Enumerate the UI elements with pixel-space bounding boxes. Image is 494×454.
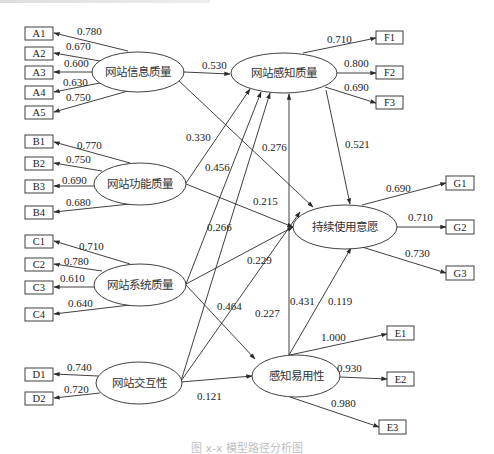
svg-text:0.690: 0.690 [62, 174, 87, 186]
svg-text:B2: B2 [33, 158, 45, 169]
svg-text:网站感知质量: 网站感知质量 [251, 66, 317, 80]
indicator-B4: B4 [25, 206, 53, 219]
svg-text:0.930: 0.930 [337, 362, 362, 374]
indicator-C4: C4 [25, 308, 53, 321]
svg-text:0.431: 0.431 [290, 295, 315, 307]
indicator-G1: G1 [446, 176, 474, 190]
svg-text:A3: A3 [33, 67, 46, 78]
latent-function-quality: 网站功能质量 [94, 163, 186, 205]
figure-caption: 图 x-x 模型路径分析图 [191, 441, 303, 454]
svg-text:0.690: 0.690 [344, 81, 369, 93]
svg-text:E1: E1 [395, 328, 407, 339]
svg-text:0.121: 0.121 [197, 390, 222, 402]
svg-text:0.640: 0.640 [68, 297, 93, 309]
indicator-F2: F2 [376, 66, 403, 79]
indicator-A1: A1 [25, 27, 53, 40]
indicator-B3: B3 [25, 180, 53, 193]
svg-text:B4: B4 [33, 207, 46, 218]
svg-text:F2: F2 [384, 67, 395, 78]
svg-text:E2: E2 [395, 374, 407, 385]
latent-interactivity: 网站交互性 [96, 362, 182, 404]
svg-text:A2: A2 [33, 48, 46, 59]
svg-text:0.780: 0.780 [77, 25, 102, 37]
svg-text:0.690: 0.690 [386, 182, 411, 194]
svg-text:0.770: 0.770 [77, 139, 102, 151]
svg-text:A4: A4 [33, 87, 47, 98]
sem-path-diagram: A1 A2 A3 A4 A5 B1 B2 B3 B4 C1 C2 C3 C4 D… [0, 0, 494, 454]
svg-text:0.710: 0.710 [79, 240, 104, 252]
svg-text:0.730: 0.730 [405, 247, 430, 259]
indicator-F1: F1 [376, 31, 403, 44]
svg-text:0.670: 0.670 [66, 40, 91, 52]
svg-text:D2: D2 [33, 393, 46, 404]
svg-text:0.215: 0.215 [253, 195, 278, 207]
svg-text:0.630: 0.630 [63, 76, 88, 88]
indicator-D2: D2 [25, 392, 53, 405]
indicator-E1: E1 [387, 326, 414, 340]
svg-text:网站功能质量: 网站功能质量 [107, 177, 173, 191]
svg-text:D1: D1 [33, 369, 46, 380]
svg-text:A1: A1 [33, 28, 46, 39]
svg-text:0.530: 0.530 [202, 59, 227, 71]
indicator-C2: C2 [25, 258, 53, 271]
indicator-B2: B2 [25, 157, 53, 170]
svg-text:G2: G2 [454, 222, 467, 233]
svg-text:0.710: 0.710 [327, 33, 352, 45]
svg-text:0.750: 0.750 [66, 91, 91, 103]
latent-perceived-ease-of-use: 感知易用性 [252, 355, 340, 397]
indicator-A2: A2 [25, 47, 53, 60]
svg-text:0.720: 0.720 [64, 383, 89, 395]
svg-text:C3: C3 [33, 282, 45, 293]
svg-text:0.266: 0.266 [207, 221, 232, 233]
svg-text:A5: A5 [33, 107, 46, 118]
svg-text:0.680: 0.680 [66, 196, 91, 208]
svg-text:B1: B1 [33, 136, 45, 147]
indicator-E3: E3 [379, 420, 406, 434]
indicator-C1: C1 [25, 235, 53, 248]
svg-text:0.276: 0.276 [262, 141, 287, 153]
indicator-G2: G2 [446, 220, 474, 234]
svg-text:0.800: 0.800 [344, 57, 369, 69]
svg-text:C1: C1 [33, 236, 45, 247]
latent-info-quality: 网站信息质量 [92, 52, 184, 92]
svg-text:感知易用性: 感知易用性 [269, 369, 324, 383]
indicator-C3: C3 [25, 281, 53, 294]
indicator-G3: G3 [446, 266, 474, 280]
svg-text:G1: G1 [454, 178, 467, 189]
svg-text:网站信息质量: 网站信息质量 [105, 65, 171, 79]
svg-text:0.119: 0.119 [328, 295, 353, 307]
svg-text:0.710: 0.710 [408, 211, 433, 223]
svg-text:C4: C4 [33, 309, 46, 320]
svg-text:E3: E3 [387, 422, 399, 433]
svg-text:0.610: 0.610 [60, 272, 85, 284]
svg-text:B3: B3 [33, 181, 45, 192]
svg-text:0.740: 0.740 [67, 361, 92, 373]
indicator-D1: D1 [25, 368, 53, 381]
svg-text:0.521: 0.521 [345, 138, 370, 150]
svg-text:0.464: 0.464 [217, 300, 242, 312]
latent-variables: 网站信息质量 网站功能质量 网站系统质量 网站交互性 网站感知质量 持续使用意愿… [92, 52, 397, 404]
svg-text:0.980: 0.980 [331, 397, 356, 409]
svg-text:G3: G3 [454, 268, 467, 279]
svg-text:F1: F1 [384, 32, 395, 43]
svg-text:0.330: 0.330 [186, 131, 211, 143]
svg-text:0.750: 0.750 [66, 153, 91, 165]
svg-text:0.229: 0.229 [247, 254, 272, 266]
indicator-E2: E2 [387, 372, 414, 386]
svg-text:网站交互性: 网站交互性 [112, 376, 167, 390]
svg-text:0.456: 0.456 [205, 161, 230, 173]
indicator-B1: B1 [25, 135, 53, 148]
latent-perceived-quality: 网站感知质量 [231, 53, 337, 93]
latent-system-quality: 网站系统质量 [94, 264, 186, 306]
svg-text:F3: F3 [384, 97, 395, 108]
indicator-F3: F3 [376, 96, 403, 109]
svg-text:1.000: 1.000 [321, 331, 346, 343]
svg-text:网站系统质量: 网站系统质量 [107, 278, 173, 292]
indicator-A3: A3 [25, 66, 53, 79]
indicator-A4: A4 [25, 86, 53, 99]
indicator-A5: A5 [25, 106, 53, 119]
latent-continuance-intention: 持续使用意愿 [293, 205, 397, 249]
svg-text:C2: C2 [33, 259, 45, 270]
svg-text:0.600: 0.600 [64, 57, 89, 69]
svg-text:0.227: 0.227 [255, 307, 280, 319]
